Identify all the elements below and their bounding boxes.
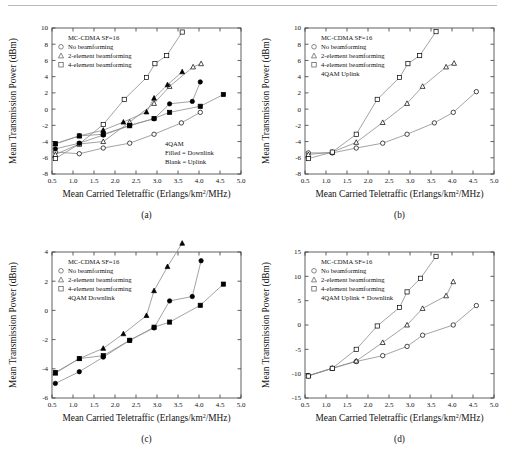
- data-point-circle-0-3: [381, 353, 385, 357]
- data-point-triangle-1-7: [452, 61, 457, 66]
- triangle-icon: [312, 277, 317, 282]
- circle-icon: [59, 45, 64, 50]
- circle-icon: [312, 45, 317, 50]
- panel-b: 0.51.01.52.02.53.03.54.04.55.0-8-6-4-202…: [253, 8, 505, 232]
- data-point-square-2-3: [128, 338, 132, 342]
- data-point-triangle-1-7: [180, 241, 185, 246]
- y-axis-title: Mean Transmission Power (dBm): [8, 262, 19, 388]
- data-point-square-2-5: [405, 290, 409, 294]
- y-tick-label: 0: [45, 307, 49, 315]
- y-tick-label: 2: [45, 89, 49, 97]
- data-point-circle-0-7: [474, 303, 478, 307]
- data-point-circle-0-6: [451, 110, 455, 114]
- y-tick-label: 0: [298, 106, 302, 114]
- x-tick-label: 1.5: [90, 177, 99, 185]
- data-point-square-2-7: [434, 30, 438, 34]
- x-tick-label: 3.0: [406, 401, 415, 409]
- y-axis-title: Mean Transmission Power (dBm): [261, 262, 272, 388]
- triangle-icon: [59, 277, 64, 282]
- y-tick-label: -6: [42, 394, 48, 402]
- x-tick-label: 5.0: [490, 401, 499, 409]
- data-point-square-2-3: [122, 97, 126, 101]
- data-point-square-2-1: [77, 356, 81, 360]
- square-icon: [59, 63, 63, 67]
- data-point-circle-0-4: [152, 132, 156, 136]
- plot-d: 0.51.01.52.02.53.03.54.04.55.0-15-10-505…: [253, 232, 505, 456]
- data-point-circle-0-2: [101, 146, 105, 150]
- y-tick-label: 4: [298, 73, 302, 81]
- data-point-square-2-7: [221, 282, 225, 286]
- circle-icon: [59, 269, 64, 274]
- data-point-circle-0-7: [474, 89, 478, 93]
- annotation-line: 4QAM: [165, 140, 184, 147]
- data-point-triangle-1-7: [199, 61, 204, 66]
- series-line-0: [308, 92, 476, 153]
- x-tick-label: 2.5: [132, 177, 141, 185]
- annotation-line: 4QAM Uplink + Downlink: [321, 294, 394, 301]
- data-point-square-2-2: [354, 132, 358, 136]
- data-point-circle-0-1: [77, 152, 81, 156]
- y-tick-label: 0: [298, 321, 302, 329]
- data-point-square-2-1: [330, 366, 334, 370]
- annotation-line: 4QAM Uplink: [321, 70, 360, 77]
- annotation-line: Blank = Uplink: [165, 158, 207, 165]
- x-tick-label: 5.0: [490, 177, 499, 185]
- x-tick-label: 2.5: [385, 177, 394, 185]
- x-tick-label: 4.0: [195, 401, 204, 409]
- data-point-circle-3-1: [77, 141, 81, 145]
- square-icon: [312, 63, 316, 67]
- data-point-triangle-1-2: [101, 139, 106, 144]
- data-point-circle-3-0: [53, 147, 57, 151]
- data-point-circle-0-0: [53, 381, 57, 385]
- y-axis-title: Mean Transmission Power (dBm): [8, 38, 19, 164]
- x-tick-label: 0.5: [301, 177, 310, 185]
- series-line-4: [55, 72, 182, 144]
- data-point-square-2-0: [53, 156, 57, 160]
- data-point-square-5-4: [152, 116, 156, 120]
- y-tick-label: 6: [298, 57, 302, 65]
- y-tick-label: -2: [42, 336, 48, 344]
- legend-title: MC-CDMA SF=16: [321, 258, 373, 265]
- data-point-square-2-6: [418, 53, 422, 57]
- x-tick-label: 5.0: [237, 401, 246, 409]
- y-tick-label: -5: [295, 346, 301, 354]
- legend-label: 2-element beamforming: [68, 276, 132, 283]
- series-line-3: [55, 82, 200, 149]
- annotation-line: Filled = Downlink: [165, 149, 214, 156]
- data-point-triangle-1-3: [380, 340, 385, 345]
- data-point-triangle-1-6: [165, 264, 170, 269]
- y-tick-label: 0: [45, 106, 49, 114]
- y-tick-label: 4: [45, 73, 49, 81]
- data-point-triangle-1-2: [354, 140, 359, 145]
- data-point-square-2-7: [180, 30, 184, 34]
- data-point-square-2-0: [306, 374, 310, 378]
- panel-caption: (b): [394, 210, 405, 221]
- x-tick-label: 1.0: [322, 401, 331, 409]
- x-tick-label: 3.0: [153, 177, 162, 185]
- annotation-line: 4QAM Downlink: [68, 294, 115, 301]
- data-point-triangle-1-7: [451, 279, 456, 284]
- x-tick-label: 2.5: [132, 401, 141, 409]
- y-tick-label: 4: [45, 248, 49, 256]
- data-point-circle-0-6: [190, 294, 194, 298]
- series-line-2: [308, 32, 436, 159]
- y-tick-label: -8: [295, 170, 301, 178]
- data-point-circle-0-5: [179, 121, 183, 125]
- y-tick-label: -2: [42, 122, 48, 130]
- data-point-square-2-5: [153, 62, 157, 66]
- legend-title: MC-CDMA SF=16: [321, 34, 373, 41]
- data-point-square-2-6: [198, 303, 202, 307]
- x-tick-label: 4.5: [469, 401, 478, 409]
- data-point-square-2-7: [434, 254, 438, 258]
- data-point-square-2-0: [53, 370, 57, 374]
- x-tick-label: 4.0: [448, 401, 457, 409]
- legend-title: MC-CDMA SF=16: [68, 258, 120, 265]
- data-point-square-2-5: [406, 62, 410, 66]
- x-tick-label: 4.5: [216, 177, 225, 185]
- data-point-circle-0-4: [405, 344, 409, 348]
- x-tick-label: 3.5: [174, 177, 183, 185]
- data-point-triangle-1-6: [444, 64, 449, 69]
- data-point-square-2-4: [144, 75, 148, 79]
- x-tick-label: 1.0: [322, 177, 331, 185]
- data-point-square-2-6: [165, 53, 169, 57]
